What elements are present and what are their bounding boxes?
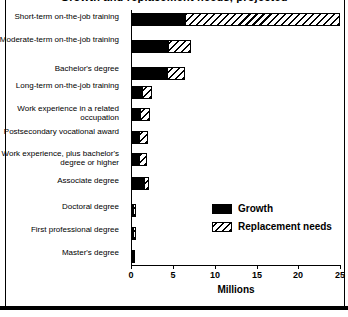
- bar-segment-growth: [131, 177, 144, 190]
- x-tick-label-20: 20: [286, 270, 310, 280]
- y-label-5: Postsecondary vocational award: [0, 128, 119, 137]
- y-label-7: Associate degree: [0, 177, 119, 186]
- legend-swatch-replacement-icon: [212, 222, 232, 232]
- x-tick-10: [215, 265, 216, 269]
- y-label-0: Short-term on-the-job training: [0, 13, 119, 22]
- x-tick-label-10: 10: [203, 270, 227, 280]
- chart-figure: Growth and replacement needs, projected …: [0, 0, 348, 317]
- x-tick-label-15: 15: [245, 270, 269, 280]
- bar-segment-replacement: [133, 250, 135, 263]
- frame-right-rule: [344, 0, 345, 306]
- bar-segment-growth: [131, 108, 140, 121]
- x-tick-15: [257, 265, 258, 269]
- y-label-9: First professional degree: [0, 226, 119, 235]
- bar-segment-replacement: [168, 40, 191, 53]
- x-tick-20: [298, 265, 299, 269]
- bar-segment-replacement: [142, 86, 152, 99]
- bar-segment-replacement: [144, 177, 148, 190]
- y-label-4: Work experience in a related occupation: [0, 105, 119, 122]
- x-axis-title: Millions: [131, 284, 341, 295]
- legend-swatch-growth-icon: [212, 204, 232, 214]
- y-label-1: Moderate-term on-the-job training: [0, 36, 119, 45]
- x-tick-25: [340, 265, 341, 269]
- x-tick-label-25: 25: [328, 270, 348, 280]
- y-label-3: Long-term on-the-job training: [0, 82, 119, 91]
- y-label-10: Master's degree: [0, 249, 119, 258]
- bar-segment-growth: [131, 40, 168, 53]
- x-tick-label-5: 5: [161, 270, 185, 280]
- frame-bottom-rule: [0, 306, 348, 310]
- y-label-6: Work experience, plus bachelor's degree …: [0, 150, 119, 167]
- legend-label-replacement: Replacement needs: [238, 221, 332, 232]
- bar-segment-replacement: [139, 131, 147, 144]
- y-label-2: Bachelor's degree: [0, 65, 119, 74]
- y-label-8: Doctoral degree: [0, 203, 119, 212]
- bar-segment-growth: [131, 67, 167, 80]
- bar-segment-replacement: [140, 108, 150, 121]
- bar-segment-growth: [131, 131, 139, 144]
- chart-title: Growth and replacement needs, projected: [0, 0, 348, 3]
- x-axis-line: [131, 265, 341, 266]
- bar-segment-replacement: [185, 13, 340, 26]
- bar-segment-replacement: [139, 153, 147, 166]
- bar-segment-growth: [131, 13, 185, 26]
- bar-segment-replacement: [133, 204, 136, 217]
- x-tick-0: [131, 265, 132, 269]
- bar-segment-replacement: [133, 227, 136, 240]
- bar-segment-growth: [131, 86, 142, 99]
- bar-segment-growth: [131, 153, 139, 166]
- x-tick-5: [173, 265, 174, 269]
- legend-label-growth: Growth: [238, 203, 273, 214]
- bar-segment-replacement: [167, 67, 185, 80]
- x-tick-label-0: 0: [119, 270, 143, 280]
